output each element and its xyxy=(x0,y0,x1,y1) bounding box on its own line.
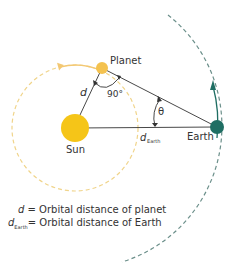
d-label: d xyxy=(80,86,88,99)
sun-earth-line xyxy=(75,127,217,128)
earth-orbit-arrowhead-icon xyxy=(210,80,216,90)
planet-orbit-arrow-arc xyxy=(60,65,102,71)
d-earth-subscript: Earth xyxy=(147,138,160,144)
planet-label: Planet xyxy=(110,55,141,66)
sun-label: Sun xyxy=(66,144,85,155)
legend-row-earth: dEarth= Orbital distance of Earth xyxy=(8,216,166,234)
right-angle-arc xyxy=(95,78,119,87)
legend-row-planet: d = Orbital distance of planet xyxy=(8,203,166,216)
theta-label: θ xyxy=(158,106,164,117)
right-angle-label: 90° xyxy=(107,89,123,99)
earth-label: Earth xyxy=(187,131,214,142)
legend: d = Orbital distance of planet dEarth= O… xyxy=(8,203,166,234)
legend-subscript-earth: Earth xyxy=(14,224,27,230)
d-earth-label: d xyxy=(140,132,147,143)
legend-text-planet: = Orbital distance of planet xyxy=(24,204,166,215)
orbital-diagram: Planet Sun Earth d 90° θ d Earth xyxy=(0,0,231,277)
sun-icon xyxy=(61,114,89,142)
theta-arrowhead-bottom-icon xyxy=(152,123,158,127)
legend-text-earth: = Orbital distance of Earth xyxy=(28,217,162,228)
planet-icon xyxy=(96,62,108,74)
